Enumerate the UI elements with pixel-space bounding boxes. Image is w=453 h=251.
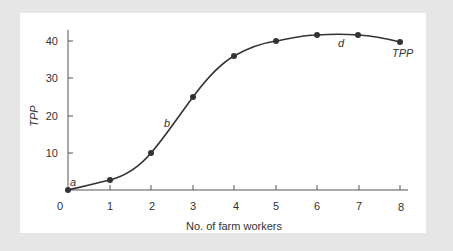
annotation-d: d [338,37,345,49]
svg-text:1: 1 [107,200,113,212]
svg-text:8: 8 [398,201,404,213]
data-point [273,38,279,44]
svg-text:20: 20 [46,110,58,122]
x-axis-title: No. of farm workers [186,220,282,232]
data-markers [65,32,403,193]
y-ticks [68,41,73,153]
svg-text:7: 7 [356,200,362,212]
x-ticks [110,185,400,190]
data-point [190,94,196,100]
svg-text:4: 4 [233,200,239,212]
data-point [397,39,403,45]
data-point [314,32,320,38]
x-tick-labels: 0 1 2 3 4 5 6 7 8 [57,200,404,213]
svg-text:40: 40 [46,35,58,47]
y-axis-title: TPP [28,105,40,127]
svg-text:2: 2 [149,200,155,212]
tpp-chart: 40 30 20 10 0 1 2 3 4 5 6 7 8 No. of far… [0,0,453,251]
data-point [148,150,154,156]
svg-text:30: 30 [46,72,58,84]
svg-text:5: 5 [273,200,279,212]
y-tick-labels: 40 30 20 10 [46,35,58,159]
data-point [107,177,113,183]
svg-text:10: 10 [46,147,58,159]
svg-text:3: 3 [190,200,196,212]
svg-text:6: 6 [314,200,320,212]
data-point [355,32,361,38]
annotation-b: b [164,117,170,129]
svg-text:0: 0 [57,200,63,212]
curve-label-tpp: TPP [392,47,414,59]
annotation-a: a [70,176,76,188]
data-point [231,53,237,59]
